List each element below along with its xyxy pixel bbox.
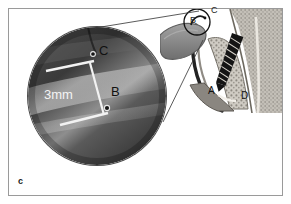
point-marker-c xyxy=(91,52,96,57)
point-marker-b xyxy=(104,105,109,110)
cross-section-radiograph xyxy=(160,9,282,113)
magnified-circular-inset: 3mm C B xyxy=(28,27,166,165)
figure-panel-c: 3mm C B B C A D c xyxy=(0,0,291,204)
inset-label-b: B xyxy=(111,84,120,99)
measurement-label: 3mm xyxy=(44,87,73,102)
panel-letter: c xyxy=(18,176,23,186)
inset-label-c: C xyxy=(99,43,108,58)
